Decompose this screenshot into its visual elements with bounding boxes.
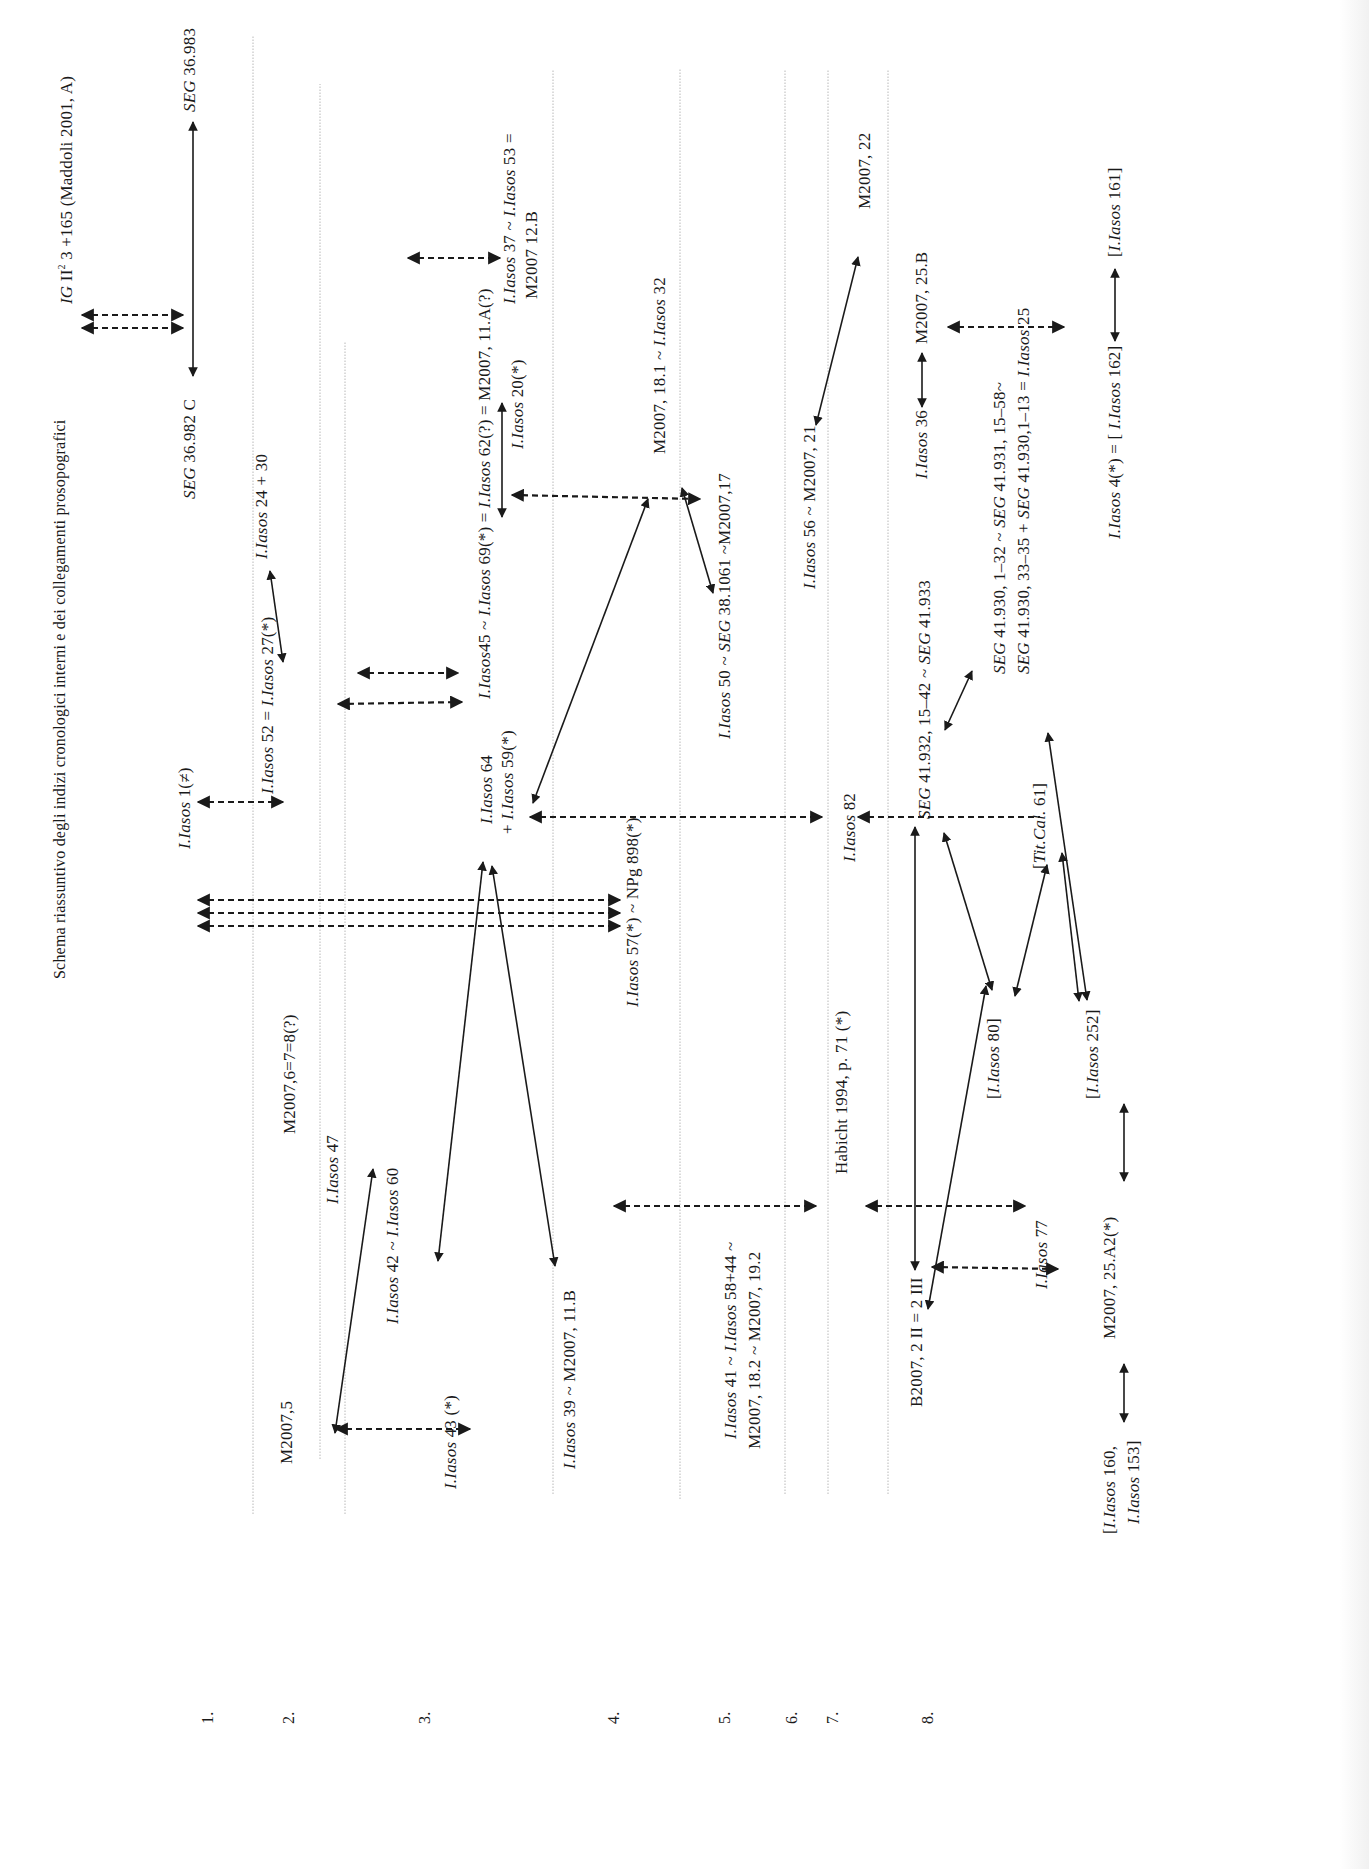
row-number-4: 4. <box>604 1712 624 1724</box>
node-m2007-18-2-19-2: M2007, 18.2 ~ M2007, 19.2 <box>745 1252 765 1449</box>
row-number-3: 3. <box>415 1712 435 1724</box>
node-iasos-42-60: I.Iasos 42 ~ I.Iasos 60 <box>383 1168 403 1324</box>
arrow-m2007181-iasos50 <box>682 488 713 593</box>
arrow-b2007-iasos80 <box>928 986 986 1309</box>
node-m2007-25a2: M2007, 25.A2(*) <box>1100 1217 1120 1339</box>
node-iasos-36: I.Iasos 36 <box>912 410 932 479</box>
node-m2007-18-1: M2007, 18.1 ~ I.Iasos 32 <box>650 277 670 454</box>
node-m2007-25b: M2007, 25.B <box>912 252 932 344</box>
node-iasos-64: I.Iasos 64 <box>477 755 497 824</box>
row-number-5: 5. <box>715 1712 735 1724</box>
node-iasos-47: I.Iasos 47 <box>323 1135 343 1204</box>
row-number-6: 6. <box>782 1712 802 1724</box>
node-iasos-37-53: I.Iasos 37 ~ I.Iasos 53 = <box>500 133 520 304</box>
node-iasos-24-30: I.Iasos 24 + 30 <box>252 454 272 559</box>
node-m2007-6-7-8: M2007,6=7=8(?) <box>280 1014 300 1134</box>
node-iasos-39-m2007-11b: I.Iasos 39 ~ M2007, 11.B <box>560 1290 580 1469</box>
node-iasos-56-m2007-21: I.Iasos 56 ~ M2007, 21 <box>800 425 820 589</box>
arrow-iasos80-titcal <box>1015 865 1047 996</box>
arrow-seg41930b-iasos252 <box>1048 733 1087 1000</box>
node-seg-41932-41933: SEG 41.932, 15–42 ~ SEG 41.933 <box>915 580 935 819</box>
diagram-canvas: Schema riassuntivo degli indizi cronolog… <box>0 0 1369 1869</box>
node-iasos-52-27: I.Iasos 52 = I.Iasos 27(*) <box>258 617 278 794</box>
node-iasos-41-58-44: I.Iasos 41 ~ I.Iasos 58+44 ~ <box>721 1242 741 1439</box>
node-ig-ii2-3: IG II2 3 +165 (Maddoli 2001, A) <box>52 76 77 304</box>
node-m2007-12b: M2007 12.B <box>522 211 542 299</box>
page-title: Schema riassuntivo degli indizi cronolog… <box>50 419 70 979</box>
node-m2007-5: M2007,5 <box>277 1401 297 1464</box>
node-m2007-22: M2007, 22 <box>855 133 875 209</box>
node-iasos-59: + I.Iasos 59(*) <box>498 730 518 834</box>
node-iasos-80: [I.Iasos 80] <box>984 1018 1004 1099</box>
node-seg-41930-iasos-25: SEG 41.930, 33–35 + SEG 41.930,1–13 = I.… <box>1014 308 1034 674</box>
dashed-row2-iasos45-b <box>338 702 462 704</box>
node-iasos-1: I.Iasos 1(≠) <box>175 767 195 849</box>
node-iasos-160: [I.Iasos 160, <box>1100 1446 1120 1534</box>
node-iasos-57-npg898: I.Iasos 57(*) ~ NPg 898(*) <box>623 817 643 1007</box>
node-iasos-252: [I.Iasos 252] <box>1083 1009 1103 1099</box>
arrow-seg41932-iasos80 <box>944 833 992 990</box>
node-iasos-20: I.Iasos 20(*) <box>508 360 528 450</box>
row-number-7: 7. <box>823 1712 843 1724</box>
node-b2007-2ii-2iii: B2007, 2 II = 2 III <box>907 1277 927 1407</box>
node-tit-cal-61: [Tit.Cal. 61] <box>1030 783 1050 869</box>
node-seg-36983: SEG 36.983 <box>180 28 200 112</box>
row-number-1: 1. <box>198 1712 218 1724</box>
arrow-m20075-iasos47 <box>335 1169 373 1433</box>
arrow-iasos56-m200722 <box>816 257 858 425</box>
row-number-2: 2. <box>279 1712 299 1724</box>
arrow-seg41932-seg41930 <box>945 671 972 730</box>
node-iasos-43: I.Iasos 43 (*) <box>441 1395 461 1489</box>
diagram-lines <box>0 0 1369 1869</box>
node-iasos-4-162: I.Iasos 4(*) = [ I.Iasos 162] <box>1105 346 1125 539</box>
node-seg-41930-41931: SEG 41.930, 1–32 ~ SEG 41.931, 15–58~ <box>990 382 1010 674</box>
node-iasos-45-69-62: I.Iasos45 ~ I.Iasos 69(*) = I.Iasos 62(?… <box>475 288 495 699</box>
arrow-iasos59-m2007181 <box>533 499 648 803</box>
arrow-iasos64-iasos42 <box>438 862 483 1261</box>
node-iasos-77: I.Iasos 77 <box>1032 1220 1052 1289</box>
node-iasos-50-seg-38-1061: I.Iasos 50 ~ SEG 38.1061 ~M2007,17 <box>715 473 735 739</box>
node-iasos-161: [I.Iasos 161] <box>1105 167 1125 257</box>
node-iasos-82: I.Iasos 82 <box>840 793 860 862</box>
node-iasos-153: I.Iasos 153] <box>1124 1440 1144 1524</box>
dashed-iasos69-iasos50 <box>512 495 700 499</box>
node-habicht-1994: Habicht 1994, p. 71 (*) <box>832 1011 852 1174</box>
node-seg-36982c: SEG 36.982 C <box>180 399 200 499</box>
row-number-8: 8. <box>918 1712 938 1724</box>
